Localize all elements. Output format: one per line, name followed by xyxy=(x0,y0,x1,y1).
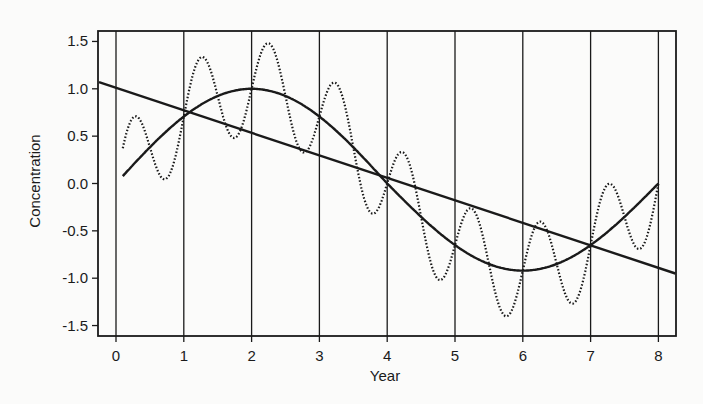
x-tick-label: 7 xyxy=(586,347,594,364)
x-axis-title: Year xyxy=(370,367,400,384)
x-tick-label: 4 xyxy=(383,347,391,364)
x-axis: 012345678 xyxy=(112,336,663,364)
y-tick-label: -1.0 xyxy=(62,269,88,286)
y-tick-label: -0.5 xyxy=(62,222,88,239)
x-tick-label: 8 xyxy=(654,347,662,364)
x-tick-label: 6 xyxy=(519,347,527,364)
y-tick-label: -1.5 xyxy=(62,317,88,334)
y-tick-label: 0.0 xyxy=(67,175,88,192)
x-tick-label: 3 xyxy=(315,347,323,364)
x-tick-label: 0 xyxy=(112,347,120,364)
y-axis: 1.51.00.50.0-0.5-1.0-1.5 xyxy=(62,32,98,333)
line-chart: 012345678 1.51.00.50.0-0.5-1.0-1.5 Year … xyxy=(0,0,703,404)
x-tick-label: 2 xyxy=(247,347,255,364)
y-axis-title: Concentration xyxy=(26,134,43,227)
y-tick-label: 0.5 xyxy=(67,127,88,144)
y-tick-label: 1.5 xyxy=(67,32,88,49)
x-tick-label: 5 xyxy=(451,347,459,364)
x-tick-label: 1 xyxy=(180,347,188,364)
y-tick-label: 1.0 xyxy=(67,80,88,97)
